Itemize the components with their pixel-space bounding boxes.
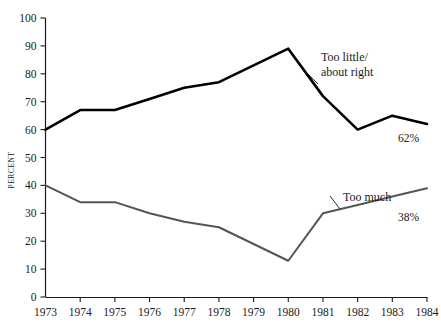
line-chart: 0102030405060708090100 19731974197519761… xyxy=(0,0,441,326)
x-tick-label: 1982 xyxy=(346,306,369,318)
x-tick-label: 1975 xyxy=(103,306,126,318)
chart-background xyxy=(0,0,441,326)
x-tick-label: 1979 xyxy=(242,306,265,318)
y-tick-label: 70 xyxy=(25,96,37,108)
annotation-too-little-about-right: Too little/ about right xyxy=(321,50,374,79)
end-label-too-little: 62% xyxy=(398,132,420,144)
annotation-too-much: Too much xyxy=(343,190,391,204)
y-tick-label: 40 xyxy=(25,179,37,191)
end-label-too-much: 38% xyxy=(398,211,420,223)
x-tick-label: 1980 xyxy=(277,306,300,318)
annotation-too-much-line1: Too much xyxy=(343,190,391,204)
y-tick-label: 100 xyxy=(19,12,37,24)
y-tick-label: 80 xyxy=(25,68,37,80)
annotation-too-little-line1: Too little/ xyxy=(321,50,368,64)
x-tick-label: 1974 xyxy=(69,306,92,318)
y-axis-title-text: PERCENT xyxy=(7,152,16,189)
y-tick-label: 0 xyxy=(31,291,37,303)
x-tick-label: 1976 xyxy=(138,306,161,318)
y-tick-label: 30 xyxy=(25,207,37,219)
y-tick-label: 50 xyxy=(25,152,37,164)
x-tick-label: 1983 xyxy=(381,306,404,318)
x-tick-label: 1984 xyxy=(416,306,439,318)
x-tick-label: 1978 xyxy=(207,306,230,318)
y-tick-label: 20 xyxy=(25,235,37,247)
chart-container: 0102030405060708090100 19731974197519761… xyxy=(0,0,441,326)
annotation-too-little-line2: about right xyxy=(321,65,374,79)
y-tick-label: 90 xyxy=(25,40,37,52)
y-tick-label: 60 xyxy=(25,124,37,136)
x-tick-label: 1973 xyxy=(34,306,57,318)
x-tick-label: 1981 xyxy=(311,306,334,318)
x-tick-label: 1977 xyxy=(173,306,196,318)
y-axis-title: PERCENT xyxy=(7,152,16,189)
y-tick-label: 10 xyxy=(25,263,37,275)
